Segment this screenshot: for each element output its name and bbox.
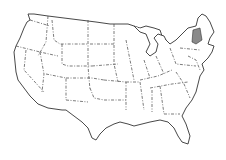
us-outline-map	[0, 0, 226, 160]
